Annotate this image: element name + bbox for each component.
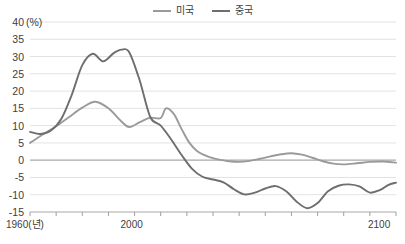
y-tick-label: -5 xyxy=(0,172,24,183)
y-tick-label: 15 xyxy=(0,103,24,114)
gridlines xyxy=(30,22,396,212)
y-tick-label: 5 xyxy=(0,138,24,149)
plot-area: (%) 4035302520151050-5-10-15 1960(년)2000… xyxy=(0,0,405,244)
x-tick-label: 2100 xyxy=(368,220,390,230)
data-series-group xyxy=(30,49,396,208)
y-tick-label: 35 xyxy=(0,34,24,45)
y-tick-label: 20 xyxy=(0,86,24,97)
y-axis-unit-label: (%) xyxy=(26,17,42,28)
x-tick-label: 1960(년) xyxy=(6,220,44,230)
y-tick-label: 0 xyxy=(0,155,24,166)
y-tick-label: 30 xyxy=(0,52,24,63)
line-chart: 미국 중국 (%) 4035302520151050-5-10-15 1960(… xyxy=(0,0,405,244)
series-line-china xyxy=(30,49,396,208)
y-tick-label: 40 xyxy=(0,17,24,28)
x-tick-label: 2000 xyxy=(121,220,143,230)
y-tick-label: 10 xyxy=(0,121,24,132)
x-axis-ticks xyxy=(30,212,396,216)
y-tick-label: -15 xyxy=(0,207,24,218)
chart-canvas xyxy=(0,0,405,244)
y-tick-label: 25 xyxy=(0,69,24,80)
series-line-usa xyxy=(30,102,396,165)
y-tick-label: -10 xyxy=(0,190,24,201)
